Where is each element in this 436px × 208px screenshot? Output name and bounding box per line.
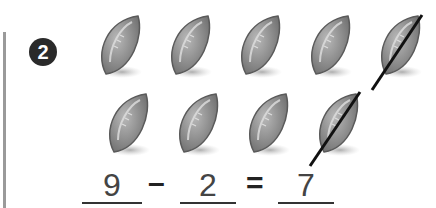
answer-blank-difference[interactable]: 7 (278, 170, 334, 204)
answer-blank-subtrahend[interactable]: 2 (180, 170, 236, 204)
minus-sign: – (148, 168, 165, 198)
equals-sign: = (246, 168, 264, 198)
answer-blank-minuend[interactable]: 9 (82, 170, 142, 204)
